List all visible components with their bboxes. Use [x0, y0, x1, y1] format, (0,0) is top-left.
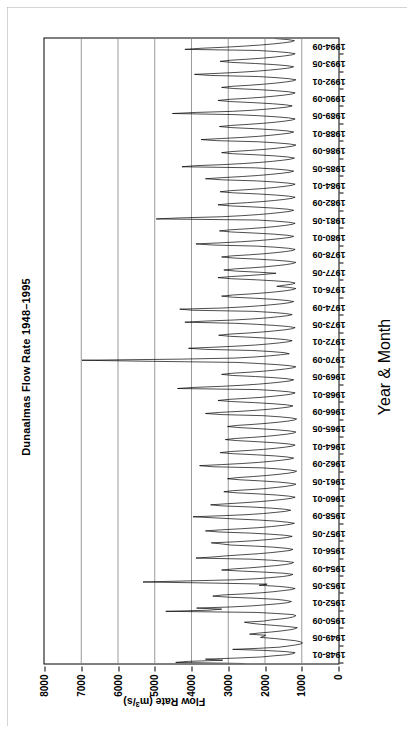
x-tick-label: 1953-05 — [312, 580, 345, 590]
series-svg — [44, 38, 338, 663]
y-tick-mark — [44, 666, 45, 671]
x-axis-title: Year & Month — [375, 318, 392, 414]
flow-rate-chart: Dunaalmas Flow Rate 1948–1995 0100020003… — [7, 7, 407, 726]
y-tick-mark — [228, 666, 229, 671]
x-tick-label: 1980-01 — [312, 232, 345, 242]
x-tick-label: 1961-05 — [312, 476, 345, 486]
y-tick-mark — [265, 666, 266, 671]
y-tick-label: 5000 — [149, 674, 160, 696]
y-tick-label: 8000 — [39, 674, 50, 696]
x-tick-mark — [339, 592, 343, 593]
y-axis-title-exponent: 3 — [135, 700, 139, 709]
x-tick-mark — [339, 332, 343, 333]
x-tick-mark — [339, 505, 343, 506]
x-tick-label: 1974-09 — [312, 302, 345, 312]
x-tick-label: 1956-01 — [312, 545, 345, 555]
x-tick-label: 1952-01 — [312, 597, 345, 607]
x-tick-mark — [339, 158, 343, 159]
page-frame: Dunaalmas Flow Rate 1948–1995 0100020003… — [7, 7, 407, 726]
x-tick-mark — [339, 645, 343, 646]
x-tick-mark — [339, 227, 343, 228]
y-axis-title: Flow Rate (m3/s) — [54, 695, 274, 709]
x-tick-label: 1985-05 — [312, 163, 345, 173]
x-tick-label: 1960-01 — [312, 493, 345, 503]
x-tick-mark — [339, 662, 343, 663]
y-tick-label: 2000 — [259, 674, 270, 696]
x-tick-mark — [339, 175, 343, 176]
x-tick-mark — [339, 105, 343, 106]
x-tick-mark — [339, 436, 343, 437]
x-tick-label: 1992-01 — [312, 76, 345, 86]
x-tick-label: 1965-05 — [312, 423, 345, 433]
y-tick-label: 6000 — [112, 674, 123, 696]
x-tick-label: 1948-01 — [312, 650, 345, 660]
x-tick-label: 1981-05 — [312, 215, 345, 225]
x-tick-label: 1977-05 — [312, 267, 345, 277]
x-tick-mark — [339, 349, 343, 350]
x-tick-mark — [339, 471, 343, 472]
x-tick-mark — [339, 575, 343, 576]
x-tick-label: 1964-01 — [312, 441, 345, 451]
x-tick-mark — [339, 140, 343, 141]
x-tick-label: 1973-05 — [312, 319, 345, 329]
x-tick-mark — [339, 419, 343, 420]
rotated-chart-container: Dunaalmas Flow Rate 1948–1995 0100020003… — [7, 7, 407, 726]
x-tick-mark — [339, 540, 343, 541]
x-tick-label: 1949-05 — [312, 632, 345, 642]
x-tick-label: 1994-09 — [312, 41, 345, 51]
x-tick-label: 1990-09 — [312, 93, 345, 103]
x-tick-mark — [339, 245, 343, 246]
x-tick-label: 1954-09 — [312, 563, 345, 573]
x-tick-mark — [339, 297, 343, 298]
y-tick-label: 1000 — [296, 674, 307, 696]
x-tick-mark — [339, 210, 343, 211]
chart-title: Dunaalmas Flow Rate 1948–1995 — [19, 7, 31, 726]
y-tick-mark — [118, 666, 119, 671]
y-tick-mark — [301, 666, 302, 671]
x-tick-mark — [339, 523, 343, 524]
y-axis-title-prefix: Flow Rate (m — [139, 695, 204, 707]
x-tick-label: 1972-01 — [312, 336, 345, 346]
x-tick-label: 1958-09 — [312, 510, 345, 520]
x-tick-label: 1982-09 — [312, 197, 345, 207]
x-tick-mark — [339, 314, 343, 315]
x-tick-label: 1957-05 — [312, 528, 345, 538]
x-tick-mark — [339, 123, 343, 124]
plot-area — [43, 37, 339, 664]
y-tick-label: 0 — [333, 674, 344, 680]
x-tick-mark — [339, 401, 343, 402]
x-tick-mark — [339, 88, 343, 89]
x-tick-mark — [339, 488, 343, 489]
x-tick-mark — [339, 366, 343, 367]
x-tick-mark — [339, 558, 343, 559]
gridlines — [81, 38, 302, 663]
y-tick-mark — [338, 666, 339, 671]
y-tick-mark — [81, 666, 82, 671]
x-tick-mark — [339, 53, 343, 54]
x-tick-label: 1988-01 — [312, 128, 345, 138]
x-tick-label: 1989-05 — [312, 110, 345, 120]
x-tick-label: 1984-01 — [312, 180, 345, 190]
y-tick-label: 4000 — [186, 674, 197, 696]
x-tick-label: 1970-09 — [312, 354, 345, 364]
y-tick-mark — [191, 666, 192, 671]
x-axis-title-wrap: Year & Month — [375, 7, 393, 726]
x-tick-label: 1978-09 — [312, 250, 345, 260]
x-tick-label: 1969-05 — [312, 371, 345, 381]
x-tick-label: 1966-09 — [312, 406, 345, 416]
x-tick-label: 1993-05 — [312, 58, 345, 68]
x-tick-label: 1976-01 — [312, 284, 345, 294]
x-tick-mark — [339, 384, 343, 385]
x-tick-mark — [339, 71, 343, 72]
y-tick-label: 7000 — [75, 674, 86, 696]
y-tick-mark — [154, 666, 155, 671]
x-tick-mark — [339, 192, 343, 193]
y-tick-label: 3000 — [222, 674, 233, 696]
x-tick-mark — [339, 627, 343, 628]
x-tick-label: 1986-09 — [312, 145, 345, 155]
x-tick-mark — [339, 610, 343, 611]
x-tick-label: 1968-01 — [312, 389, 345, 399]
x-tick-mark — [339, 279, 343, 280]
x-tick-mark — [339, 453, 343, 454]
y-axis-title-suffix: /s) — [123, 695, 135, 707]
